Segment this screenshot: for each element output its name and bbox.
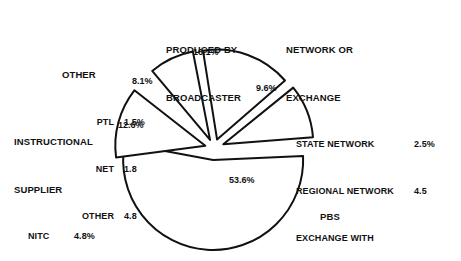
callout-network-header-line2: EXCHANGE [286,92,461,104]
callout-instructional-row-nitc: NITC 4.8% [14,231,106,242]
callout-produced-header-line1: PRODUCED BY [166,44,241,56]
pie-chart-figure: 16.1%9.6%53.6%12.6%8.1% OTHER PTL 1.5% N… [0,0,461,261]
callout-other-value-other: 4.8 [114,211,158,222]
callout-produced-header-line2: BROADCASTER [166,92,241,104]
callout-other-value-ptl: 1.5% [114,117,158,128]
callout-other-value-net: 1.8 [114,164,158,175]
callout-pbs-header: PBS [320,211,461,223]
callout-network-row-state: STATE NETWORK 2.5% [286,139,461,150]
callout-instructional-value-nitc: 4.8% [74,231,106,242]
callout-instructional-name-nitc: NITC [28,231,74,242]
callout-network-header-line1: NETWORK OR [286,44,461,56]
pie-slice-label-network-or-exchange: 9.6% [256,83,277,93]
callout-network-name-state: STATE NETWORK [296,139,414,150]
callout-other-header: OTHER [62,69,158,81]
callout-instructional-header-line1: INSTRUCTIONAL [14,136,106,148]
callout-pbs-group: PBS SCHEDULED FEED 48.5% TAPE 3.8 PREFEE… [320,175,461,261]
callout-produced-group: PRODUCED BY BROADCASTER [166,8,241,139]
pie-slice-label-pbs: 53.6% [229,175,255,185]
callout-instructional-group: INSTRUCTIONAL SUPPLIER NITC 4.8% GPNITL … [14,100,106,261]
callout-instructional-header-line2: SUPPLIER [14,184,106,196]
callout-network-value-state: 2.5% [414,139,448,150]
